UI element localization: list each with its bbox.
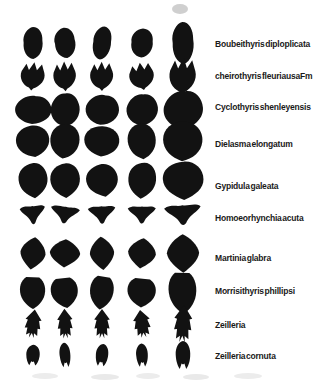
species-label: Martinia glabra: [215, 253, 271, 263]
brachiopod-silhouette-figure: Boubeithyris diploplicatacheirothyris fl…: [0, 0, 328, 383]
species-label: Morrisithyris phillipsi: [215, 286, 295, 296]
species-label: Gypidula galeata: [215, 181, 278, 191]
species-label: Dielasma elongatum: [215, 139, 293, 149]
species-label: Zeilleria: [215, 320, 245, 330]
species-label: Cyclothyris shenleyensis: [215, 102, 311, 112]
species-label: cheirothyris fleuriausaFm: [215, 71, 312, 81]
species-label: Homoeorhynchia acuta: [215, 213, 304, 223]
species-label: Boubeithyris diploplicata: [215, 39, 310, 49]
species-label: Zeilleria cornuta: [215, 351, 276, 361]
species-labels-column: Boubeithyris diploplicatacheirothyris fl…: [0, 0, 328, 383]
